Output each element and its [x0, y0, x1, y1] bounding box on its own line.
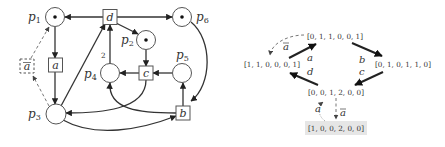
transition-c: c — [139, 66, 153, 80]
transition-label: a — [24, 60, 31, 73]
transition-d: d — [103, 10, 117, 25]
token — [180, 15, 184, 19]
edge-m3-m1 — [290, 73, 318, 85]
place-p5: p5 — [173, 48, 192, 83]
token — [144, 38, 148, 42]
arc-p6-b — [191, 22, 207, 101]
place-label: p3 — [28, 107, 41, 122]
place-p1: p1 — [28, 8, 65, 27]
transition-label: c — [143, 67, 149, 80]
arc-b-p4 — [110, 83, 176, 113]
edge-label-d: d — [307, 66, 313, 77]
marking-node: [0, 0, 1, 2, 0, 0] — [308, 88, 364, 97]
edge-label-a: a — [307, 52, 313, 63]
place-label: p1 — [28, 10, 41, 25]
arc-c-p3 — [66, 80, 146, 113]
place-p3: p3 — [28, 104, 66, 124]
transition-a-bar: a — [20, 59, 34, 73]
reachability-graph: a a b c d a a [0, 1, 1, 0, 0, 1] [1, 1, … — [244, 32, 431, 136]
transition-b: b — [176, 106, 190, 120]
arc-abar-p1 — [31, 27, 49, 58]
edge-label-b: b — [359, 54, 365, 65]
petri-net: p1 p2 p3 p4 2 p5 p6 d — [20, 8, 209, 131]
marking-node: [0, 1, 1, 0, 0, 1] — [307, 32, 363, 41]
transition-a: a — [49, 58, 63, 72]
transition-label: b — [179, 107, 186, 120]
place-p2: p2 — [121, 31, 156, 50]
arc-p3-d — [61, 24, 105, 106]
place-p4: p4 2 — [84, 51, 120, 83]
marking-node: [0, 1, 0, 1, 1, 0] — [375, 60, 431, 69]
token — [53, 15, 57, 19]
place-label: p6 — [196, 10, 209, 25]
arc-weight-label: 2 — [101, 51, 106, 60]
transition-label: a — [52, 59, 59, 72]
marking-node: [1, 1, 0, 0, 0, 1] — [244, 60, 300, 69]
place-label: p4 — [84, 67, 97, 82]
edge-m0-m2 — [352, 43, 382, 56]
marking-node-highlighted: [1, 0, 0, 2, 0, 0] — [308, 124, 364, 133]
place-label: p5 — [176, 48, 189, 63]
diagram-canvas: p1 p2 p3 p4 2 p5 p6 d — [0, 0, 445, 147]
arc-p3-abar — [33, 76, 49, 106]
arc-p3-b — [63, 116, 176, 130]
place-p6: p6 — [173, 8, 209, 27]
transition-label: d — [106, 11, 113, 24]
edge-label-c: c — [359, 66, 365, 77]
place-label: p2 — [121, 33, 134, 48]
edge-label-a: a — [315, 103, 321, 114]
